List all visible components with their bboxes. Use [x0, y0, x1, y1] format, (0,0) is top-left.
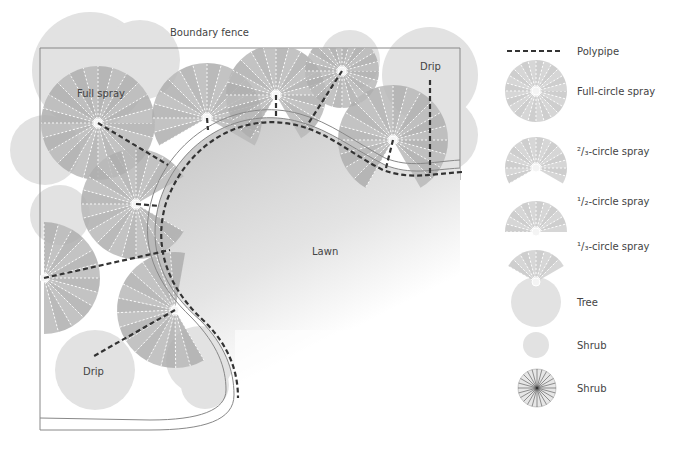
drip-label-bottom: Drip	[83, 366, 104, 377]
legend-label-tree: Tree	[576, 297, 598, 308]
legend-label-half: ¹/₂-circle spray	[577, 196, 650, 207]
legend-label-shrub: Shrub	[577, 340, 606, 351]
legend-shrub-symbol	[523, 332, 549, 358]
legend-label-two-thirds: ²/₃-circle spray	[577, 146, 650, 157]
legend-third-symbol	[508, 250, 563, 286]
full-spray-label: Full spray	[77, 88, 125, 99]
legend-label-shrub-fine: Shrub	[577, 383, 606, 394]
irrigation-diagram: Boundary fence Full spray Drip Drip Lawn…	[0, 0, 680, 454]
legend-label-third: ¹/₃-circle spray	[577, 241, 650, 252]
legend-label-polypipe: Polypipe	[577, 46, 619, 57]
legend-label-full: Full-circle spray	[577, 86, 655, 97]
legend-half-symbol	[505, 201, 567, 236]
drip-label-top: Drip	[420, 61, 441, 72]
legend: Polypipe Full-circle spray ²/₃-circle sp…	[505, 46, 655, 407]
legend-two-thirds-symbol	[505, 137, 567, 184]
legend-shrub-fine-symbol	[518, 369, 556, 407]
fence-label: Boundary fence	[170, 27, 249, 38]
lawn-label: Lawn	[312, 246, 338, 257]
legend-full-symbol	[505, 60, 567, 122]
